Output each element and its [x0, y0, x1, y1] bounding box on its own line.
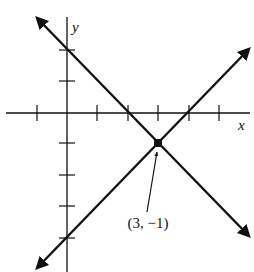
- annotation-arrow: [147, 152, 157, 212]
- coordinate-plane: y x (3, −1): [0, 0, 254, 272]
- descending-line: [37, 18, 249, 236]
- ascending-line: [37, 49, 249, 268]
- intersection-label: (3, −1): [128, 215, 169, 232]
- y-axis-label: y: [70, 19, 79, 35]
- intersection-point: [154, 139, 162, 147]
- x-axis-label: x: [237, 117, 245, 133]
